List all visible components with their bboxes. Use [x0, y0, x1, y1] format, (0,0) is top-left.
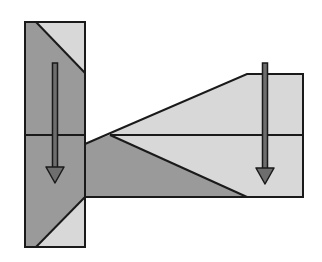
block-diagram: [0, 0, 322, 262]
diagram-canvas: [0, 0, 322, 262]
right-block: [85, 74, 303, 197]
